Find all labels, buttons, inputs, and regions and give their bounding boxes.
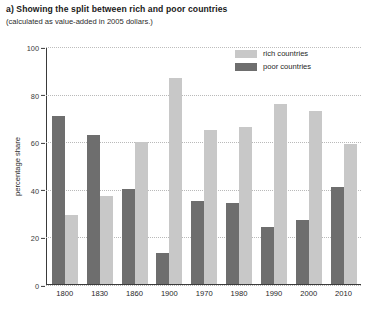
x-tick-2010: 2010: [326, 289, 361, 298]
chart-subtitle: (calculated as value-added in 2005 dolla…: [6, 17, 153, 26]
bar-1900-rich: [169, 78, 182, 284]
bar-group-2000: [291, 47, 326, 284]
x-tick-1980: 1980: [222, 289, 257, 298]
x-tick-2000: 2000: [291, 289, 326, 298]
bar-1800-rich: [65, 215, 78, 284]
bar-group-1990: [256, 47, 291, 284]
legend-label-poor: poor countries: [263, 62, 311, 71]
bar-2010-rich: [344, 144, 357, 284]
bar-group-1900: [152, 47, 187, 284]
bar-1990-poor: [261, 227, 274, 284]
bar-1800-poor: [52, 116, 65, 284]
bar-group-1980: [222, 47, 257, 284]
bar-1970-rich: [204, 130, 217, 284]
y-axis-label-text: percentage share: [14, 136, 23, 195]
bar-1980-poor: [226, 203, 239, 283]
y-tick-100: 100: [27, 44, 46, 53]
bar-1860-rich: [135, 142, 148, 284]
bar-2000-rich: [309, 111, 322, 284]
bar-1980-rich: [239, 127, 252, 283]
y-tick-20: 20: [31, 234, 46, 243]
bar-1830-poor: [87, 135, 100, 284]
bar-1830-rich: [100, 196, 113, 284]
bar-1990-rich: [274, 104, 287, 284]
bar-1860-poor: [122, 189, 135, 284]
bar-1900-poor: [156, 253, 169, 284]
x-tick-1800: 1800: [47, 289, 82, 298]
chart-legend: rich countries poor countries: [235, 49, 311, 71]
bar-group-1800: [47, 47, 82, 284]
bar-2000-poor: [296, 220, 309, 284]
y-tick-0: 0: [35, 282, 46, 291]
bar-group-1970: [187, 47, 222, 284]
x-tick-1900: 1900: [152, 289, 187, 298]
y-tick-40: 40: [31, 186, 46, 195]
legend-label-rich: rich countries: [263, 49, 308, 58]
chart-title: a) Showing the split between rich and po…: [6, 4, 228, 14]
bar-2010-poor: [331, 187, 344, 284]
x-tick-1970: 1970: [187, 289, 222, 298]
y-tick-80: 80: [31, 91, 46, 100]
bar-group-2010: [326, 47, 361, 284]
y-tick-60: 60: [31, 139, 46, 148]
plot-area: 020406080100: [46, 47, 361, 285]
x-axis-labels: 180018301860190019701980199020002010: [47, 289, 361, 298]
legend-item-rich: rich countries: [235, 49, 311, 58]
legend-swatch-rich: [235, 50, 257, 58]
x-tick-1860: 1860: [117, 289, 152, 298]
bar-group-1860: [117, 47, 152, 284]
bar-groups: [47, 47, 361, 284]
legend-item-poor: poor countries: [235, 62, 311, 71]
bar-1970-poor: [191, 201, 204, 284]
bar-group-1830: [82, 47, 117, 284]
x-tick-1990: 1990: [256, 289, 291, 298]
gridline-0: 0: [46, 285, 361, 286]
y-axis-label: percentage share: [12, 47, 24, 285]
legend-swatch-poor: [235, 63, 257, 71]
x-tick-1830: 1830: [82, 289, 117, 298]
